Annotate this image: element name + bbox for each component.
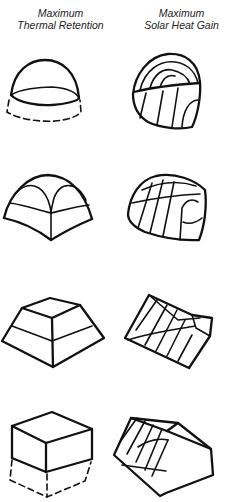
solar-dome-figure [133,54,200,128]
truncated-pyramid-figure [2,298,104,367]
box-figure [10,412,92,497]
solar-truncated-pyramid-figure [125,295,212,368]
solar-box-figure [114,418,213,496]
hemisphere-dome-figure [7,60,81,121]
diagram-canvas [0,0,242,502]
solar-segmented-dome-figure [128,175,206,240]
segmented-dome-figure [4,175,92,240]
